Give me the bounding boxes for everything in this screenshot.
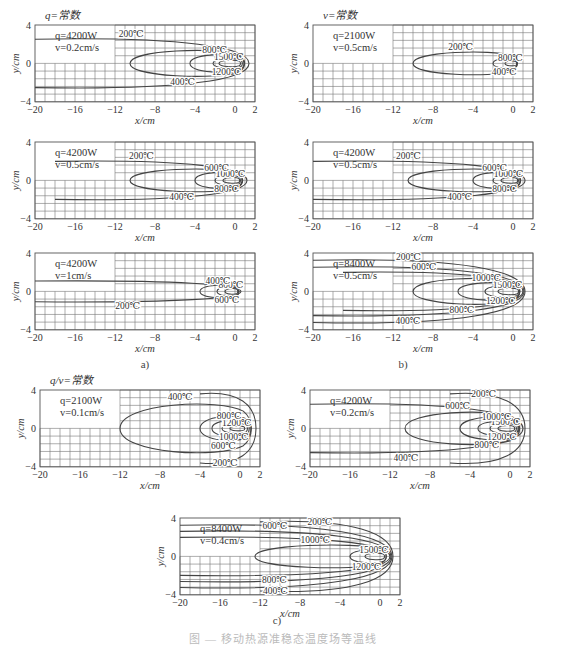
y-tick-label: 0 <box>26 175 31 186</box>
x-axis-label: x/cm <box>412 115 433 126</box>
x-tick-label: −4 <box>468 332 479 343</box>
group-title: v=常数 <box>323 9 359 21</box>
x-tick-label: 0 <box>511 332 516 343</box>
x-tick-label: 0 <box>233 104 238 115</box>
y-axis-label: y/cm <box>155 546 166 567</box>
isotherm-label: 1200℃ <box>486 296 516 306</box>
isotherm-label: 400℃ <box>447 192 472 202</box>
x-tick-label: −16 <box>345 221 361 232</box>
subfigure-label-b: b) <box>388 358 418 370</box>
chart-panel-b1: 800℃400℃200℃q=2100Wv=0.5cm/sv=常数−20−16−1… <box>290 2 566 136</box>
y-tick-label: 4 <box>301 385 306 396</box>
chart-svg: 1500℃1200℃1000℃800℃600℃400℃200℃q=8400Wv=… <box>290 238 566 364</box>
x-tick-label: 0 <box>508 469 513 480</box>
chart-panel-c2: 1500℃1200℃1000℃800℃600℃400℃200℃q=4200Wv=… <box>290 368 566 501</box>
subfigure-label-a: a) <box>130 358 160 370</box>
isotherm-label: 800℃ <box>475 440 500 450</box>
x-tick-label: −8 <box>150 104 161 115</box>
x-tick-label: −12 <box>107 221 123 232</box>
isotherm-label: 400℃ <box>393 453 418 463</box>
x-tick-label: −12 <box>385 332 401 343</box>
speed-label: v=0.5cm/s <box>333 270 377 281</box>
x-tick-label: 2 <box>253 221 258 232</box>
speed-label: v=0.5cm/s <box>55 159 99 170</box>
x-tick-label: 0 <box>238 469 243 480</box>
heat-input-label: q=8400W <box>200 523 242 534</box>
y-tick-label: 4 <box>304 248 309 259</box>
y-tick-label: −4 <box>298 324 309 335</box>
chart-svg: 1500℃1200℃1000℃800℃600℃400℃200℃q=4200Wv=… <box>290 368 566 501</box>
x-tick-label: −4 <box>465 469 476 480</box>
isotherm-label: 800℃ <box>217 411 242 421</box>
isotherm-label: 200℃ <box>213 458 238 468</box>
speed-label: v=0.5cm/s <box>333 42 377 53</box>
isotherm-label: 400℃ <box>396 316 421 326</box>
x-tick-label: 0 <box>511 104 516 115</box>
isotherm-label: 200℃ <box>115 301 140 311</box>
x-tick-label: −4 <box>468 221 479 232</box>
y-tick-label: 0 <box>304 175 309 186</box>
x-tick-label: −16 <box>67 221 83 232</box>
y-axis-label: y/cm <box>10 170 21 191</box>
heat-input-label: q=4200W <box>55 30 97 41</box>
x-tick-label: 0 <box>233 332 238 343</box>
y-axis-label: y/cm <box>10 281 21 302</box>
x-tick-label: 0 <box>233 221 238 232</box>
x-tick-label: 2 <box>531 221 536 232</box>
x-tick-label: 0 <box>511 221 516 232</box>
x-tick-label: −8 <box>150 332 161 343</box>
x-tick-label: −12 <box>385 104 401 115</box>
chart-panel-c3: 1500℃1200℃1000℃800℃600℃400℃200℃q=8400Wv=… <box>152 496 460 629</box>
x-tick-label: 2 <box>528 469 533 480</box>
y-axis-label: y/cm <box>15 418 26 439</box>
x-tick-label: −12 <box>252 597 268 608</box>
x-tick-label: −4 <box>190 104 201 115</box>
x-tick-label: 2 <box>398 597 403 608</box>
x-tick-label: −8 <box>428 104 439 115</box>
heat-input-label: q=2100W <box>333 30 375 41</box>
chart-panel-a3: 800℃600℃400℃200℃q=4200Wv=1cm/s−20−16−12−… <box>0 238 315 364</box>
heat-input-label: q=4200W <box>55 147 97 158</box>
isotherm-label: 400℃ <box>206 276 231 286</box>
isotherm-label: 800℃ <box>498 53 523 63</box>
isotherm-label: 200℃ <box>129 151 154 161</box>
heat-input-label: q=4200W <box>330 395 372 406</box>
y-axis-label: y/cm <box>10 53 21 74</box>
isotherm-label: 1000℃ <box>300 535 330 545</box>
x-tick-label: −8 <box>428 221 439 232</box>
x-tick-label: −12 <box>107 104 123 115</box>
y-tick-label: −4 <box>20 96 31 107</box>
heat-input-label: q=8400W <box>333 258 375 269</box>
y-tick-label: 4 <box>31 385 36 396</box>
isotherm-label: 400℃ <box>492 67 517 77</box>
isotherm-label: 400℃ <box>169 192 194 202</box>
x-tick-label: −16 <box>212 597 228 608</box>
isotherm-label: 600℃ <box>204 163 229 173</box>
x-tick-label: −16 <box>345 332 361 343</box>
y-tick-label: 0 <box>304 58 309 69</box>
isotherm-label: 600℃ <box>412 262 437 272</box>
chart-svg: 1500℃1200℃800℃400℃200℃q=4200Wv=0.2cm/sq=… <box>0 2 315 136</box>
heat-input-label: q=4200W <box>55 258 97 269</box>
isotherm-label: 1200℃ <box>352 562 382 572</box>
isotherm-label: 600℃ <box>445 401 470 411</box>
isotherm-label: 400℃ <box>168 392 193 402</box>
isotherm-label: 1500℃ <box>359 545 389 555</box>
y-tick-label: 4 <box>171 513 176 524</box>
isotherm-label: 600℃ <box>214 295 239 305</box>
isotherm-label: 800℃ <box>262 575 287 585</box>
y-tick-label: 4 <box>26 248 31 259</box>
chart-svg: 1500℃1200℃1000℃800℃600℃400℃200℃q=8400Wv=… <box>152 496 460 629</box>
y-tick-label: 4 <box>26 20 31 31</box>
speed-label: v=1cm/s <box>55 270 91 281</box>
x-tick-label: 2 <box>253 104 258 115</box>
y-tick-label: −4 <box>20 213 31 224</box>
x-tick-label: −4 <box>195 469 206 480</box>
speed-label: v=0.4cm/s <box>200 535 244 546</box>
y-axis-label: y/cm <box>288 281 299 302</box>
speed-label: v=0.1cm/s <box>60 407 104 418</box>
isotherm-label: 600℃ <box>211 441 236 451</box>
isotherm-label: 200℃ <box>396 151 421 161</box>
isotherm-label: 200℃ <box>307 517 332 527</box>
isotherm-label: 800℃ <box>214 184 239 194</box>
